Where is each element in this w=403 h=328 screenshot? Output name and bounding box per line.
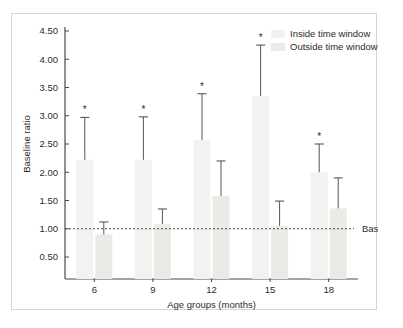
baseline-ratio-bar-chart: 0.501.001.502.002.503.003.504.004.50Base… [12,14,378,311]
bar-inside-15 [252,96,269,279]
bar-inside-9 [135,160,152,279]
x-axis-tick-label-9: 9 [150,284,155,295]
x-axis-tick-label-15: 15 [265,284,276,295]
bar-outside-15 [271,226,288,279]
significance-marker-inside-12: * [200,81,204,92]
x-axis-tick-label-18: 18 [323,284,334,295]
bar-outside-12 [213,196,230,279]
significance-marker-inside-15: * [259,32,263,43]
legend-label-inside: Inside time window [290,28,370,39]
y-axis-tick-label-3.00: 3.00 [40,110,59,121]
bar-inside-6 [76,160,93,279]
x-axis-tick-label-12: 12 [206,284,217,295]
y-axis-tick-label-1.50: 1.50 [40,195,59,206]
y-axis-title: Baseline ratio [21,115,32,173]
y-axis-tick-label-2.00: 2.00 [40,167,59,178]
y-axis-tick-label-4.50: 4.50 [40,25,59,36]
baseline-annotation-label: Baseline [362,223,378,234]
bar-inside-12 [194,140,211,279]
y-axis-tick-label-4.00: 4.00 [40,54,59,65]
significance-marker-inside-9: * [141,104,145,115]
x-axis-title: Age groups (months) [167,299,256,310]
y-axis-tick-label-3.50: 3.50 [40,82,59,93]
bar-outside-6 [95,234,112,279]
legend-swatch-inside [271,30,285,38]
significance-marker-inside-6: * [83,104,87,115]
bar-inside-18 [311,172,328,279]
legend-label-outside: Outside time window [290,41,378,52]
x-axis-tick-label-6: 6 [92,284,97,295]
bar-outside-9 [154,224,171,279]
chart-plot-area: 0.501.001.502.002.503.003.504.004.50Base… [12,14,378,311]
figure-frame: 0.501.001.502.002.503.003.504.004.50Base… [11,13,377,310]
y-axis-tick-label-2.50: 2.50 [40,138,59,149]
significance-marker-inside-18: * [317,131,321,142]
legend-swatch-outside [271,43,285,51]
bar-outside-18 [330,208,347,279]
y-axis-tick-label-1.00: 1.00 [40,223,59,234]
y-axis-tick-label-0.50: 0.50 [40,251,59,262]
